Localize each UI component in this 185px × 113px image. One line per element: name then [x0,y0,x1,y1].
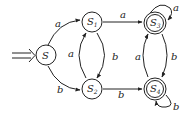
edge-s2-s4: b [103,89,142,100]
edge-label: b [57,84,63,95]
edge-label: b [112,51,118,62]
edge-s-s1: a [48,18,80,45]
state-s4-accepting: S4 [144,78,166,100]
state-s3-accepting: S3 [144,12,166,34]
state-subscript: 1 [94,21,98,28]
start-arrow-icon [12,49,35,62]
state-subscript: 3 [157,22,161,29]
edge-s2-s1: a [68,33,86,78]
edge-label: b [171,51,177,62]
edge-s-s2: b [48,66,80,95]
edge-label: a [55,18,61,29]
state-label: S [42,50,49,61]
edge-label: b [173,101,179,112]
state-subscript: 2 [93,88,98,95]
edge-s4-s3: a [135,34,148,77]
edge-s3-s4: b [162,34,177,77]
state-s: S [36,45,56,65]
state-subscript: 4 [156,88,161,95]
edge-label: a [68,48,74,59]
edge-s1-s2: b [97,33,118,78]
state-s1: S1 [82,12,102,32]
edge-s1-s3: a [103,9,142,22]
state-s2: S2 [82,79,102,99]
edge-label: a [173,2,179,13]
edge-label: b [118,89,124,100]
edge-label: a [120,9,126,20]
edge-label: a [135,51,141,62]
dfa-diagram: a b a b a b a b a b S S1 [0,0,185,113]
